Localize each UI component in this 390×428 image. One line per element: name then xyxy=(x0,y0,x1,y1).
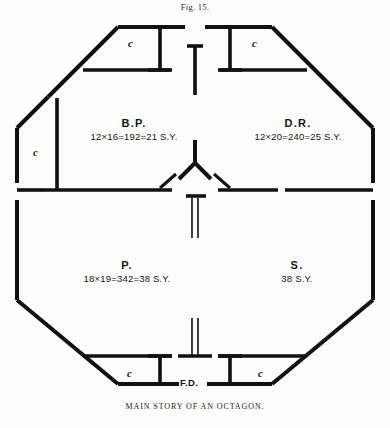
stair-y-left-branch xyxy=(179,163,195,179)
closet-label-bottom-right: c xyxy=(258,367,263,379)
room-dimensions-bed-parlor: 12×16=192=21 S.Y. xyxy=(54,130,214,144)
room-abbr-sitting-room: S. xyxy=(222,258,372,272)
room-dimensions-sitting-room: 38 S.Y. xyxy=(222,272,372,286)
door-swing-left-leaf xyxy=(160,174,176,188)
closet-label-top-left: c xyxy=(128,37,133,49)
front-door-label: F.D. xyxy=(179,377,199,388)
outer-wall-lower-right-diagonal xyxy=(272,300,373,384)
room-abbr-bed-parlor: B.P. xyxy=(54,116,214,130)
outer-wall-corner-upper-left xyxy=(17,97,48,128)
room-abbr-dining-room: D.R. xyxy=(218,116,378,130)
room-label-sitting-room: S. 38 S.Y. xyxy=(222,258,372,286)
room-label-dining-room: D.R. 12×20=240=25 S.Y. xyxy=(218,116,378,144)
figure-caption: MAIN STORY OF AN OCTAGON. xyxy=(0,402,390,411)
central-stair-hall xyxy=(179,140,211,356)
interior-partition-walls xyxy=(17,27,373,384)
closet-label-top-right: c xyxy=(252,37,257,49)
hall-shaft-lower xyxy=(192,318,198,356)
room-label-bed-parlor: B.P. 12×16=192=21 S.Y. xyxy=(54,116,214,144)
outer-wall-upper-left-diagonal xyxy=(48,27,118,97)
closet-label-left: c xyxy=(33,146,38,158)
room-dimensions-dining-room: 12×20=240=25 S.Y. xyxy=(218,130,378,144)
door-swing-right-leaf xyxy=(214,174,230,188)
hall-shaft-upper xyxy=(192,198,198,238)
outer-wall-upper-right-diagonal xyxy=(272,27,342,97)
room-label-parlor: P. 18×19=342=38 S.Y. xyxy=(42,258,212,286)
stair-y-symbol xyxy=(179,140,211,179)
room-abbr-parlor: P. xyxy=(42,258,212,272)
closet-label-bottom-left: c xyxy=(127,367,132,379)
outer-wall-lower-left-diagonal xyxy=(17,300,118,384)
room-dimensions-parlor: 18×19=342=38 S.Y. xyxy=(42,272,212,286)
figure-page: Fig. 15. xyxy=(0,0,390,428)
stair-y-right-branch xyxy=(195,163,211,179)
door-swings xyxy=(160,174,230,188)
octagon-floor-plan-drawing xyxy=(0,0,390,428)
